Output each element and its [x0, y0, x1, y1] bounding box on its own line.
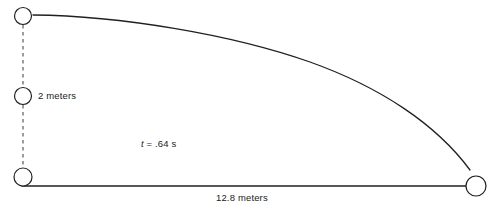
launch-position-circle [15, 8, 32, 25]
vertical-drop-label: 2 meters [38, 90, 76, 101]
horizontal-range-label: 12.8 meters [216, 192, 268, 203]
projectile-trajectory-curve [33, 15, 470, 170]
projectile-landing-circle [466, 176, 486, 196]
projectile-motion-diagram: 2 meters t = .64 s 12.8 meters [0, 0, 494, 211]
midpoint-drop-circle [15, 88, 32, 105]
flight-time-label: t = .64 s [141, 138, 176, 149]
drop-landing-circle [14, 168, 32, 186]
diagram-canvas [0, 0, 494, 211]
time-value: = .64 s [144, 138, 177, 149]
